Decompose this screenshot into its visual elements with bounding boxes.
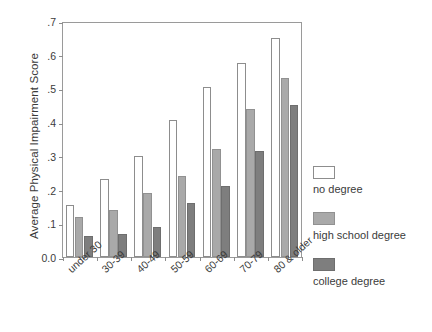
y-axis-tick-label: .1: [47, 218, 56, 230]
plot-area: 0.0.1.2.3.4.5.6.7: [62, 22, 302, 258]
x-axis-tick-mark: [165, 257, 166, 261]
bar-group: [134, 23, 161, 257]
x-axis-tick-mark: [63, 257, 64, 261]
legend-label: no degree: [313, 183, 363, 195]
x-axis-tick-mark: [131, 257, 132, 261]
y-axis-tick-label: .5: [47, 83, 56, 95]
bar-chart: Average Physical Impairment Score 0.0.1.…: [0, 0, 432, 332]
bar-group: [66, 23, 93, 257]
bar-groups: [63, 23, 301, 257]
bar: [178, 176, 187, 257]
bar: [290, 105, 299, 257]
bar: [281, 78, 290, 257]
bar-group: [203, 23, 230, 257]
bar: [246, 109, 255, 257]
legend-swatch: [313, 212, 335, 225]
x-axis-tick-mark: [302, 257, 303, 261]
y-axis-tick-label: 0.0: [41, 252, 56, 264]
y-axis-tick-label: .2: [47, 185, 56, 197]
legend-item[interactable]: no degree: [313, 166, 363, 195]
bar-group: [169, 23, 196, 257]
bar: [271, 38, 280, 257]
bar: [221, 186, 230, 257]
bar-group: [100, 23, 127, 257]
bar: [255, 151, 264, 257]
bar-group: [271, 23, 298, 257]
bar: [169, 120, 178, 257]
y-axis-tick-label: .6: [47, 50, 56, 62]
bar: [134, 156, 143, 257]
x-axis-tick-mark: [268, 257, 269, 261]
bar: [66, 205, 75, 257]
y-axis-tick-label: .3: [47, 151, 56, 163]
legend-item[interactable]: high school degree: [313, 212, 406, 241]
x-axis-tick-mark: [234, 257, 235, 261]
bar: [212, 149, 221, 257]
y-axis-tick-label: .7: [47, 16, 56, 28]
x-axis-tick-mark: [97, 257, 98, 261]
bar: [203, 87, 212, 257]
legend-swatch: [313, 258, 335, 271]
bar: [237, 63, 246, 257]
legend-label: college degree: [313, 275, 385, 287]
bar-group: [237, 23, 264, 257]
legend-swatch: [313, 166, 335, 179]
x-axis-tick-mark: [200, 257, 201, 261]
legend-label: high school degree: [313, 229, 406, 241]
y-axis-tick-label: .4: [47, 117, 56, 129]
y-axis-title: Average Physical Impairment Score: [28, 26, 40, 266]
legend-item[interactable]: college degree: [313, 258, 385, 287]
bar: [143, 193, 152, 257]
